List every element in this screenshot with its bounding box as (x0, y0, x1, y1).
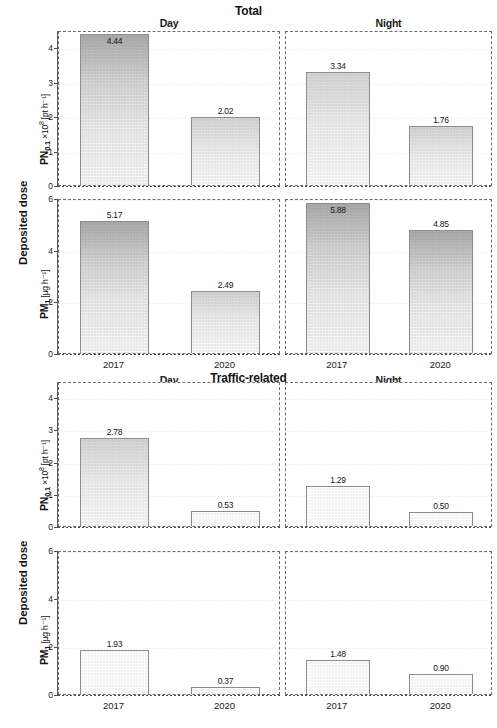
plot-area-traffic-pm-night: 1.480.90 (286, 552, 491, 694)
x-axis-line-traffic-pm-night (285, 695, 492, 696)
plot-area-total-pn-night: 3.341.76 (286, 32, 491, 185)
panel-total-pn-day: 4.442.02 (58, 31, 280, 186)
bar-total-pm-night-2017[interactable] (306, 203, 370, 353)
x-tick-label-total-pm-night-2017: 2017 (311, 359, 363, 370)
bar-traffic-pm-night-2017[interactable] (306, 660, 370, 694)
y-tick-label-pm-row1-2: 4 (37, 246, 53, 256)
bar-total-pn-night-2017[interactable] (306, 72, 370, 185)
x-axis-line-total-pm-night (285, 354, 492, 355)
bar-value-label-total-pn-night-2017: 3.34 (292, 61, 384, 71)
x-tick-label-traffic-pm-day-2020: 2020 (199, 700, 251, 711)
gridline-total-pm-day-3 (59, 200, 279, 201)
y-tick-label-pn-row0-2: 2 (37, 112, 53, 122)
y-tick-label-pm-row3-3: 6 (37, 546, 53, 556)
bar-value-label-total-pm-night-2020: 4.85 (395, 219, 487, 229)
x-axis-line-total-pn-night (285, 186, 492, 187)
group-title-total: Total (0, 4, 497, 18)
gridline-traffic-pm-night-3 (286, 552, 491, 553)
gridline-total-pm-night-3 (286, 200, 491, 201)
panel-traffic-pm-day: 1.930.37 (58, 551, 280, 695)
gridline-traffic-pn-night-3 (286, 431, 491, 432)
bar-total-pn-night-2020[interactable] (409, 126, 473, 185)
plot-area-traffic-pn-night: 1.290.50 (286, 383, 491, 526)
y-tick-label-pn-row0-4: 4 (37, 43, 53, 53)
bar-traffic-pn-day-2017[interactable] (80, 438, 149, 526)
outer-y-axis-label-top: Deposited dose (17, 181, 29, 265)
x-tick-label-traffic-pm-night-2020: 2020 (414, 700, 466, 711)
bar-traffic-pm-night-2020[interactable] (409, 674, 473, 694)
panel-total-pm-day: 5.172.49 (58, 199, 280, 354)
y-tick-label-pm-row1-1: 2 (37, 297, 53, 307)
y-tick-label-pm-row3-0: 0 (37, 690, 53, 700)
bar-value-label-traffic-pm-night-2020: 0.90 (395, 663, 487, 673)
gridline-traffic-pn-night-4 (286, 399, 491, 400)
plot-area-total-pn-day: 4.442.02 (59, 32, 279, 185)
x-axis-line-total-pn-day (58, 186, 280, 187)
x-tick-label-total-pm-day-2020: 2020 (199, 359, 251, 370)
bar-traffic-pm-day-2017[interactable] (80, 650, 149, 694)
y-tick-label-pn-row0-3: 3 (37, 78, 53, 88)
outer-y-axis-label-bottom: Deposited dose (17, 541, 29, 625)
gridline-traffic-pm-night-2 (286, 600, 491, 601)
bar-total-pn-day-2017[interactable] (80, 34, 149, 185)
bar-traffic-pn-night-2017[interactable] (306, 486, 370, 526)
bar-value-label-traffic-pn-night-2020: 0.50 (395, 501, 487, 511)
x-axis-line-traffic-pm-day (58, 695, 280, 696)
x-tick-label-traffic-pm-day-2017: 2017 (88, 700, 140, 711)
gridline-traffic-pn-night-2 (286, 464, 491, 465)
y-tick-label-pn-row2-2: 2 (37, 458, 53, 468)
figure-root: TotalTraffic-relatedDayNightDayNightDepo… (0, 0, 497, 728)
y-axis-label-pn-row2: PN0.1 ×108 [pt h⁻¹] (38, 440, 52, 511)
bar-traffic-pm-day-2020[interactable] (191, 687, 260, 694)
x-axis-line-traffic-pn-day (58, 527, 280, 528)
column-title-day-total: Day (58, 17, 280, 29)
y-tick-label-pn-row2-0: 0 (37, 522, 53, 532)
bar-value-label-traffic-pm-night-2017: 1.48 (292, 649, 384, 659)
x-tick-label-total-pm-day-2017: 2017 (88, 359, 140, 370)
bar-value-label-total-pn-day-2017: 4.44 (66, 36, 163, 46)
bar-value-label-total-pm-day-2017: 5.17 (66, 210, 163, 220)
bar-traffic-pn-night-2020[interactable] (409, 512, 473, 526)
gridline-traffic-pm-day-2 (59, 600, 279, 601)
bar-value-label-traffic-pm-day-2020: 0.37 (177, 676, 274, 686)
panel-traffic-pn-night: 1.290.50 (285, 382, 492, 527)
y-axis-label-pm-row3: PM1 [µg h⁻¹] (38, 616, 52, 665)
bar-total-pm-day-2017[interactable] (80, 221, 149, 353)
bar-value-label-total-pm-day-2020: 2.49 (177, 280, 274, 290)
bar-total-pm-night-2020[interactable] (409, 230, 473, 353)
y-axis-label-pm-row1: PM1 [µg h⁻¹] (38, 269, 52, 318)
x-axis-line-total-pm-day (58, 354, 280, 355)
x-tick-label-total-pm-night-2020: 2020 (414, 359, 466, 370)
bar-traffic-pn-day-2020[interactable] (191, 511, 260, 526)
bar-total-pm-day-2020[interactable] (191, 291, 260, 353)
panel-total-pn-night: 3.341.76 (285, 31, 492, 186)
bar-value-label-total-pm-night-2017: 5.88 (292, 205, 384, 215)
plot-area-total-pm-night: 5.884.85 (286, 200, 491, 353)
x-axis-line-traffic-pn-night (285, 527, 492, 528)
panel-traffic-pm-night: 1.480.90 (285, 551, 492, 695)
gridline-traffic-pm-day-3 (59, 552, 279, 553)
y-tick-label-pm-row3-2: 4 (37, 594, 53, 604)
bar-total-pn-day-2020[interactable] (191, 117, 260, 185)
gridline-traffic-pn-day-4 (59, 399, 279, 400)
plot-area-traffic-pn-day: 2.780.53 (59, 383, 279, 526)
column-title-night-total: Night (285, 17, 492, 29)
y-tick-label-pm-row3-1: 2 (37, 642, 53, 652)
plot-area-traffic-pm-day: 1.930.37 (59, 552, 279, 694)
bar-value-label-traffic-pn-day-2020: 0.53 (177, 500, 274, 510)
panel-traffic-pn-day: 2.780.53 (58, 382, 280, 527)
y-tick-label-pm-row1-0: 0 (37, 349, 53, 359)
y-tick-label-pn-row2-4: 4 (37, 393, 53, 403)
x-tick-label-traffic-pm-night-2017: 2017 (311, 700, 363, 711)
y-tick-label-pn-row0-1: 1 (37, 147, 53, 157)
bar-value-label-traffic-pn-night-2017: 1.29 (292, 475, 384, 485)
y-tick-label-pn-row2-1: 1 (37, 490, 53, 500)
plot-area-total-pm-day: 5.172.49 (59, 200, 279, 353)
bar-value-label-total-pn-night-2020: 1.76 (395, 115, 487, 125)
y-tick-label-pn-row2-3: 3 (37, 425, 53, 435)
y-tick-label-pm-row1-3: 6 (37, 194, 53, 204)
y-tick-label-pn-row0-0: 0 (37, 181, 53, 191)
bar-value-label-traffic-pm-day-2017: 1.93 (66, 639, 163, 649)
bar-value-label-total-pn-day-2020: 2.02 (177, 106, 274, 116)
bar-value-label-traffic-pn-day-2017: 2.78 (66, 427, 163, 437)
